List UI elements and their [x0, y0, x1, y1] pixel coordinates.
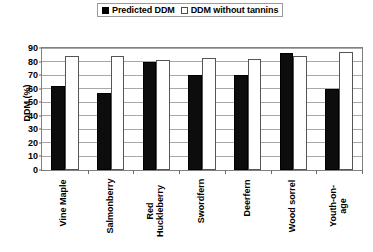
- bar-group: [188, 48, 215, 170]
- y-axis-tick-label: 40: [28, 111, 38, 120]
- bar-group: [234, 48, 261, 170]
- y-axis-tick-label: 70: [28, 71, 38, 80]
- bar-predicted-ddm: [143, 62, 157, 170]
- bar-group: [97, 48, 124, 170]
- y-axis-tick-label: 60: [28, 84, 38, 93]
- open-square-icon: [181, 7, 188, 14]
- bar-group: [51, 48, 78, 170]
- chart-legend: Predicted DDM DDM without tannins: [97, 3, 283, 17]
- y-axis-tick-label: 30: [28, 125, 38, 134]
- bar-ddm-without-tannins: [339, 52, 353, 170]
- bar-ddm-without-tannins: [156, 60, 170, 170]
- plot-area: 0102030405060708090: [41, 47, 363, 171]
- y-axis-tick-label: 50: [28, 98, 38, 107]
- bar-predicted-ddm: [188, 75, 202, 170]
- bar-series-container: [42, 48, 362, 170]
- legend-label-ddm-without-tannins: DDM without tannins: [191, 6, 279, 15]
- bar-predicted-ddm: [325, 89, 339, 170]
- x-axis-category-label: Vine Maple: [41, 173, 87, 252]
- bar-ddm-without-tannins: [202, 58, 216, 171]
- legend-label-predicted-ddm: Predicted DDM: [112, 6, 175, 15]
- x-axis-category-label: Salmonberry: [87, 173, 133, 252]
- bar-ddm-without-tannins: [248, 59, 262, 170]
- y-axis-tick-label: 0: [33, 166, 38, 175]
- x-axis-category-label: Youth-on- age: [315, 173, 361, 252]
- x-axis-category-labels: Vine MapleSalmonberryRed HuckleberrySwor…: [41, 173, 363, 252]
- y-axis-tick-label: 20: [28, 138, 38, 147]
- bar-group: [280, 48, 307, 170]
- x-axis-category-label: Red Huckleberry: [132, 173, 178, 252]
- legend-item-predicted-ddm: Predicted DDM: [102, 6, 175, 15]
- y-axis-tick-label: 90: [28, 44, 38, 53]
- x-axis-category-label: Swordfern: [178, 173, 224, 252]
- x-axis-category-label: Deerfern: [224, 173, 270, 252]
- legend-item-ddm-without-tannins: DDM without tannins: [181, 6, 279, 15]
- x-axis-category-label: Wood sorrel: [270, 173, 316, 252]
- filled-square-icon: [102, 7, 109, 14]
- bar-predicted-ddm: [280, 53, 294, 170]
- bar-ddm-without-tannins: [111, 56, 125, 170]
- y-axis-tick-label: 80: [28, 57, 38, 66]
- bar-predicted-ddm: [97, 93, 111, 170]
- bar-group: [143, 48, 170, 170]
- bar-ddm-without-tannins: [65, 56, 79, 170]
- bar-group: [325, 48, 352, 170]
- bar-ddm-without-tannins: [293, 56, 307, 170]
- bar-predicted-ddm: [51, 86, 65, 170]
- y-axis-tick-label: 10: [28, 152, 38, 161]
- bar-predicted-ddm: [234, 75, 248, 170]
